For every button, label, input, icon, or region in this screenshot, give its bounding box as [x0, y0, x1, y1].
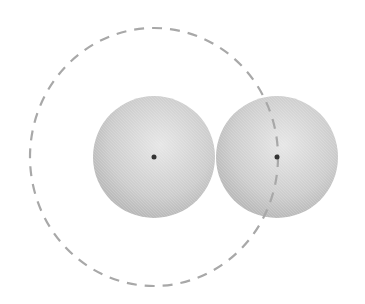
right-center-dot: [275, 155, 280, 160]
left-center-dot: [152, 155, 157, 160]
diagram-canvas: [0, 0, 365, 304]
